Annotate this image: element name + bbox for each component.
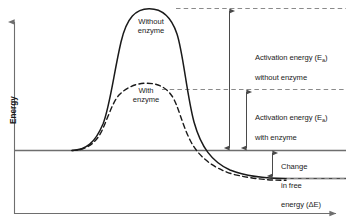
curve-label-with-enzyme: With enzyme <box>120 86 172 105</box>
annotation-text-line-2: with enzyme <box>255 133 297 142</box>
annotation-change-in-free-energy: Change in free energy (ΔE) <box>281 153 345 209</box>
curve-without-enzyme <box>72 9 286 179</box>
annotation-activation-energy-without-enzyme: Activation energy (Ea) without enzyme <box>255 44 347 83</box>
annotation-text-line-3: energy (ΔE) <box>281 200 321 209</box>
annotation-text-line-1: Activation energy (E <box>255 113 322 122</box>
y-axis-label: Energy <box>9 96 18 124</box>
annotation-text-line-1-end: ) <box>325 113 327 122</box>
annotation-text-line-1: Change <box>281 162 307 171</box>
annotation-activation-energy-with-enzyme: Activation energy (Ea) with enzyme <box>255 104 347 143</box>
subscript-a: a <box>322 117 325 123</box>
subscript-a: a <box>322 57 325 63</box>
enzyme-energy-diagram: Energy Without enzyme With enzyme Activa… <box>0 0 348 223</box>
annotation-text-line-2: in free <box>281 181 302 190</box>
annotation-text-line-1: Activation energy (E <box>255 53 322 62</box>
curve-with-enzyme <box>72 83 286 180</box>
energy-curves <box>72 9 286 180</box>
annotation-text-line-2: without enzyme <box>255 73 307 82</box>
curve-label-without-enzyme: Without enzyme <box>123 17 179 36</box>
measurement-arrows <box>230 11 273 176</box>
annotation-text-line-1-end: ) <box>325 53 327 62</box>
